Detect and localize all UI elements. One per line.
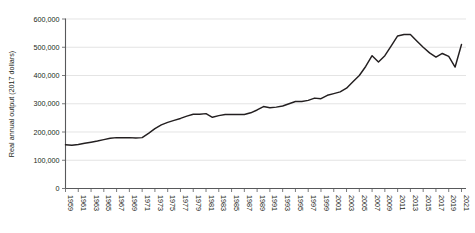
chart-figure: 0100,000200,000300,000400,000500,000600,… (0, 0, 475, 233)
x-tick-label: 2007 (373, 195, 382, 211)
x-tick-label: 1977 (181, 195, 190, 211)
x-tick-label: 1959 (66, 195, 75, 211)
x-tick-label: 1981 (207, 195, 216, 211)
x-tick-label: 2001 (334, 195, 343, 211)
x-tick-label: 1963 (92, 195, 101, 211)
x-tick-label: 1989 (258, 195, 267, 211)
x-tick-label: 1973 (156, 195, 165, 211)
x-tick-label: 1967 (117, 195, 126, 211)
y-tick-label: 500,000 (34, 43, 60, 52)
y-axis-ticks: 0100,000200,000300,000400,000500,000600,… (34, 15, 66, 194)
x-tick-label: 1999 (322, 195, 331, 211)
x-axis-ticks: 1959196119631965196719691971197319751977… (66, 189, 472, 212)
x-tick-label: 1987 (245, 195, 254, 211)
x-tick-label: 1965 (104, 195, 113, 211)
x-tick-label: 1991 (270, 195, 279, 211)
x-tick-label: 1975 (168, 195, 177, 211)
y-tick-label: 600,000 (34, 15, 60, 24)
x-tick-label: 1969 (130, 195, 139, 211)
y-axis-title: Real annual output (2017 dollars) (7, 51, 16, 157)
y-tick-label: 400,000 (34, 71, 60, 80)
x-tick-label: 1995 (296, 195, 305, 211)
y-tick-label: 100,000 (34, 156, 60, 165)
x-tick-label: 2009 (385, 195, 394, 211)
x-tick-label: 2017 (437, 195, 446, 211)
x-tick-label: 1985 (232, 195, 241, 211)
x-tick-label: 2019 (449, 195, 458, 211)
y-tick-label: 0 (56, 184, 60, 193)
line-chart: 0100,000200,000300,000400,000500,000600,… (0, 0, 475, 233)
x-tick-label: 1971 (143, 195, 152, 211)
x-tick-label: 2011 (398, 195, 407, 210)
x-tick-label: 2013 (411, 195, 420, 211)
x-tick-label: 1961 (79, 195, 88, 211)
x-tick-label: 2021 (462, 195, 471, 211)
x-tick-label: 2015 (424, 195, 433, 211)
x-tick-label: 1993 (283, 195, 292, 211)
x-tick-label: 2005 (360, 195, 369, 211)
x-tick-label: 1979 (194, 195, 203, 211)
y-tick-label: 200,000 (34, 128, 60, 137)
y-tick-label: 300,000 (34, 99, 60, 108)
x-tick-label: 1997 (309, 195, 318, 211)
gridlines (66, 19, 467, 160)
data-series-line (66, 35, 462, 146)
x-tick-label: 2003 (347, 195, 356, 211)
x-tick-label: 1983 (219, 195, 228, 211)
